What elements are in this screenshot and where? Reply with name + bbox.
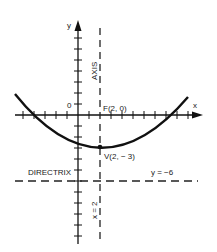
vertex-point bbox=[98, 145, 103, 150]
directrix-label: DIRECTRIX bbox=[28, 168, 72, 177]
axis-label: AXIS bbox=[90, 62, 99, 80]
axis-equation-label: x = 2 bbox=[90, 201, 99, 219]
x-axis-arrow-icon bbox=[192, 112, 203, 119]
focus-label: F(2, 0) bbox=[103, 104, 127, 113]
directrix-equation-label: y = −6 bbox=[151, 168, 174, 177]
vertex-label: V(2, − 3) bbox=[104, 152, 135, 161]
origin-label: 0 bbox=[67, 101, 72, 110]
y-axis-label: y bbox=[67, 21, 71, 30]
parabola-curve bbox=[15, 94, 188, 148]
x-axis-label: x bbox=[193, 101, 197, 110]
y-axis-arrow-icon bbox=[75, 20, 82, 31]
y-axis bbox=[74, 20, 82, 244]
